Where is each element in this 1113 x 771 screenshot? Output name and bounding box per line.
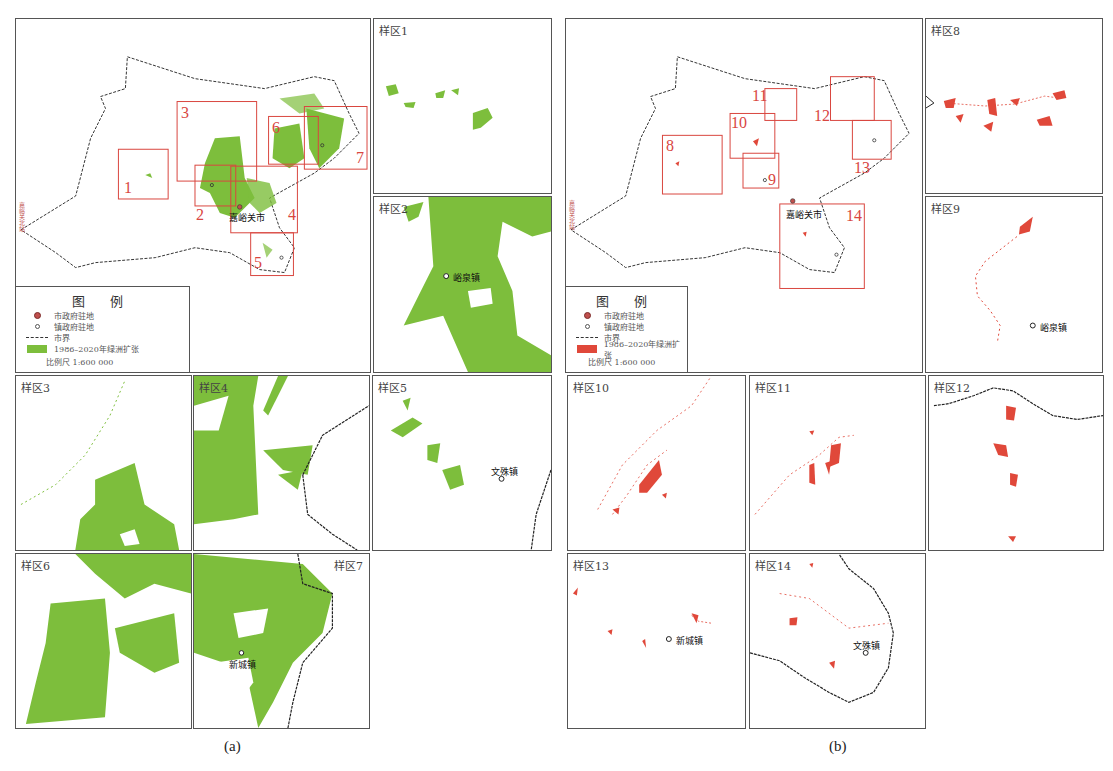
edge-station-label: 嘉峪关北站 (567, 200, 576, 230)
sample-area-9: 样区9 峪泉镇 (925, 196, 1103, 373)
legend-item-town: 镇政府驻地 (26, 321, 189, 332)
sample-label: 样区10 (573, 379, 609, 395)
town-label: 峪泉镇 (1040, 321, 1067, 334)
town-label: 文殊镇 (491, 465, 518, 478)
boundary-line-icon (576, 337, 598, 338)
box-label-7: 7 (356, 149, 364, 167)
legend-item-expansion: 1986–2020年绿洲扩张 (26, 343, 189, 354)
legend-scale: 比例尺 1:600 000 (46, 356, 189, 367)
box-label-4: 4 (288, 206, 296, 224)
town-dot-icon (585, 324, 590, 329)
sample-area-12: 样区12 (928, 375, 1104, 551)
caption-a: (a) (224, 738, 241, 755)
box-label-9: 9 (768, 171, 776, 189)
sample-label: 样区6 (21, 557, 50, 573)
sample-area-13: 样区13 新城镇 (567, 553, 746, 729)
box-label-5: 5 (254, 254, 262, 272)
legend-title: 图 例 (16, 291, 189, 310)
sample-area-6: 样区6 (15, 553, 192, 729)
city-label: 嘉峪关市 (786, 208, 822, 221)
box-label-2: 2 (196, 206, 204, 224)
city-dot-icon (584, 312, 591, 319)
city-label: 嘉峪关市 (229, 211, 265, 224)
sample-label: 样区12 (934, 379, 970, 395)
sample-area-1: 样区1 (373, 18, 552, 194)
box-label-6: 6 (272, 119, 280, 137)
red-swatch-icon (577, 345, 597, 353)
green-swatch-icon (27, 345, 47, 353)
box-label-10: 10 (731, 114, 747, 132)
town-dot-icon (35, 324, 40, 329)
town-label: 文殊镇 (853, 639, 880, 652)
legend-a: 图 例 市政府驻地 镇政府驻地 市界 1986–2020年绿洲扩张 比例尺 1:… (15, 286, 190, 373)
town-label: 峪泉镇 (453, 271, 480, 284)
legend-b: 图 例 市政府驻地 镇政府驻地 市界 1986–2020年绿洲扩张 比例尺 1:… (565, 286, 688, 373)
sample-label: 样区7 (334, 557, 363, 573)
town-label: 新城镇 (229, 658, 256, 671)
sample-label: 样区9 (931, 200, 960, 216)
box-label-1: 1 (124, 179, 132, 197)
map-a-main: 1 2 3 4 5 6 7 嘉峪关市 嘉峪关北站 图 例 市政府驻地 镇政府驻地… (15, 18, 371, 373)
sample-area-5: 样区5 文殊镇 (372, 375, 552, 551)
legend-item-boundary: 市界 (26, 332, 189, 343)
legend-item-city: 市政府驻地 (576, 310, 687, 321)
box-label-12: 12 (814, 107, 830, 125)
sample-area-14: 样区14 文殊镇 (749, 553, 926, 729)
sample-label: 样区11 (755, 379, 791, 395)
sample-label: 样区1 (379, 22, 408, 38)
caption-b: (b) (829, 738, 847, 755)
sample-area-10: 样区10 (567, 375, 746, 551)
boundary-line-icon (26, 337, 48, 338)
map-b-main: 8 9 10 11 12 13 14 嘉峪关市 嘉峪关北站 图 例 市政府驻地 … (565, 18, 923, 373)
box-label-14: 14 (846, 207, 862, 225)
sample-label: 样区13 (573, 557, 609, 573)
edge-station-label: 嘉峪关北站 (17, 202, 26, 232)
sample-area-8: 样区8 (925, 18, 1103, 194)
sample-area-11: 样区11 (749, 375, 926, 551)
legend-title: 图 例 (566, 291, 687, 310)
box-label-11: 11 (752, 87, 767, 105)
legend-item-town: 镇政府驻地 (576, 321, 687, 332)
box-label-13: 13 (854, 159, 870, 177)
town-label: 新城镇 (676, 634, 703, 647)
sample-area-7: 样区7 新城镇 (193, 553, 370, 729)
sample-area-3: 样区3 (15, 375, 192, 551)
city-dot-icon (34, 312, 41, 319)
sample-label: 样区2 (379, 200, 408, 216)
sample-label: 样区14 (755, 557, 791, 573)
sample-area-2: 样区2 峪泉镇 (373, 196, 552, 373)
legend-item-city: 市政府驻地 (26, 310, 189, 321)
sample-area-4: 样区4 (193, 375, 370, 551)
sample-label: 样区4 (199, 379, 228, 395)
sample-label: 样区3 (21, 379, 50, 395)
sample-label: 样区5 (378, 379, 407, 395)
sample-label: 样区8 (931, 22, 960, 38)
box-label-8: 8 (666, 137, 674, 155)
legend-item-expansion: 1986–2020年绿洲扩张 (576, 343, 687, 354)
box-label-3: 3 (181, 104, 189, 122)
